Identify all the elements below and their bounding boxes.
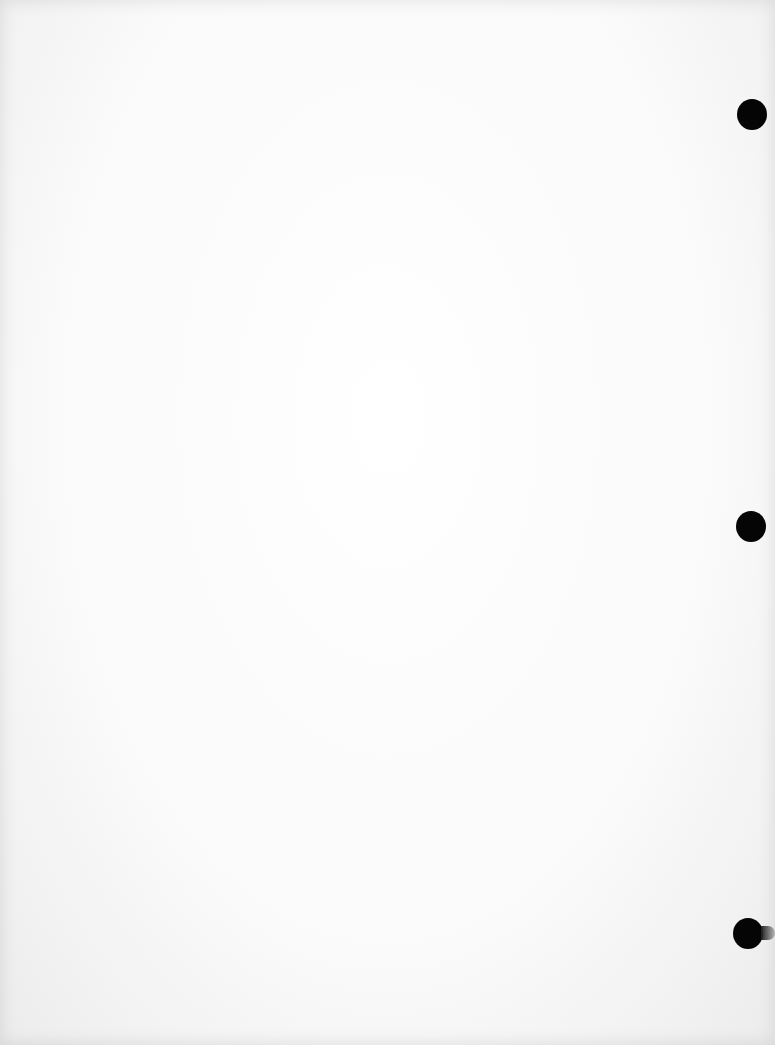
page-edge-shadow (0, 0, 775, 1045)
punch-hole-bottom (733, 918, 763, 949)
punch-hole-top (737, 99, 767, 130)
punch-hole-bottom-shadow (761, 926, 775, 940)
scanned-page (0, 0, 775, 1045)
punch-hole-middle (736, 511, 766, 542)
